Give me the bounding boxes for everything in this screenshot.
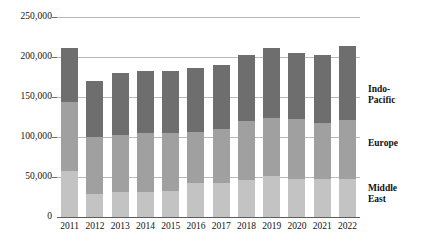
bar-2018 <box>238 55 255 217</box>
bar-2014 <box>137 71 154 217</box>
bar-segment-europe <box>86 137 103 194</box>
plot-area <box>57 17 360 217</box>
bar-segment-indo-pacific <box>61 48 78 102</box>
bar-segment-indo-pacific <box>288 53 305 119</box>
bar-segment-middle-east <box>86 194 103 217</box>
bar-segment-europe <box>162 133 179 191</box>
bar-segment-indo-pacific <box>187 68 204 132</box>
bar-segment-indo-pacific <box>137 71 154 133</box>
bar-segment-indo-pacific <box>112 73 129 135</box>
bar-segment-europe <box>61 102 78 171</box>
bar-segment-middle-east <box>137 192 154 217</box>
bar-segment-middle-east <box>314 179 331 217</box>
bar-segment-europe <box>187 132 204 183</box>
bar-2012 <box>86 81 103 217</box>
y-axis-tick-label: 50,000 <box>0 172 52 182</box>
stacked-bar-chart: 050,000100,000150,000200,000250,000 2011… <box>0 0 428 248</box>
bar-segment-europe <box>112 135 129 193</box>
gridline <box>57 17 360 18</box>
bar-2022 <box>339 46 356 217</box>
axis-baseline <box>57 217 360 218</box>
bar-segment-middle-east <box>112 192 129 217</box>
bar-segment-middle-east <box>61 171 78 217</box>
y-axis-tick-label: 150,000 <box>0 92 52 102</box>
series-label-indo-pacific: Indo- Pacific <box>368 84 395 106</box>
bar-segment-middle-east <box>213 183 230 217</box>
y-axis-tick-label: 200,000 <box>0 52 52 62</box>
y-axis-tick-label: 0 <box>0 212 52 222</box>
bar-segment-europe <box>339 120 356 179</box>
bar-segment-europe <box>314 123 331 179</box>
bar-segment-middle-east <box>263 176 280 217</box>
bar-2016 <box>187 68 204 217</box>
bar-segment-indo-pacific <box>162 71 179 133</box>
bar-segment-indo-pacific <box>86 81 103 137</box>
y-axis-tick-label: 100,000 <box>0 132 52 142</box>
bar-segment-europe <box>238 121 255 180</box>
bar-segment-middle-east <box>288 179 305 217</box>
y-axis-tick-label: 250,000 <box>0 12 52 22</box>
bar-2013 <box>112 73 129 217</box>
bar-segment-indo-pacific <box>238 55 255 121</box>
bar-segment-indo-pacific <box>314 55 331 124</box>
bar-2020 <box>288 53 305 217</box>
bar-2017 <box>213 65 230 217</box>
bar-2015 <box>162 71 179 217</box>
bar-2021 <box>314 55 331 217</box>
bar-segment-indo-pacific <box>339 46 356 120</box>
bar-segment-europe <box>137 133 154 192</box>
bar-2019 <box>263 48 280 217</box>
x-axis-tick-label: 2022 <box>330 221 364 231</box>
bar-segment-europe <box>263 118 280 176</box>
bar-segment-middle-east <box>187 183 204 217</box>
series-label-middle-east: Middle East <box>368 183 397 205</box>
series-label-europe: Europe <box>368 138 398 149</box>
bar-segment-middle-east <box>339 179 356 217</box>
bar-segment-middle-east <box>238 180 255 217</box>
bar-2011 <box>61 48 78 217</box>
bar-segment-europe <box>288 119 305 179</box>
bar-segment-middle-east <box>162 191 179 217</box>
bar-segment-europe <box>213 129 230 183</box>
bar-segment-indo-pacific <box>263 48 280 118</box>
bar-segment-indo-pacific <box>213 65 230 129</box>
